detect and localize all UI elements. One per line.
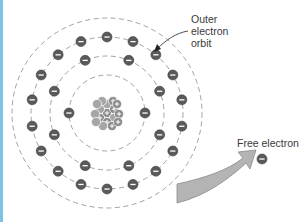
neutron [92, 99, 101, 108]
proton [112, 99, 121, 108]
electron [128, 37, 138, 47]
electron [128, 179, 138, 189]
nucleus [90, 96, 123, 130]
electron [124, 55, 134, 65]
outer-orbit-label-line3: orbit [191, 37, 228, 49]
electron [76, 37, 86, 47]
atom-diagram [0, 0, 302, 222]
electron [140, 108, 150, 118]
electron [36, 146, 46, 156]
electron [155, 86, 165, 96]
electron [53, 166, 63, 176]
outer-orbit-label: Outer electron orbit [191, 13, 228, 49]
electron [53, 50, 63, 60]
outer-orbit-label-line1: Outer [191, 13, 228, 25]
neutron [91, 117, 100, 126]
electron [102, 32, 112, 42]
electron [49, 86, 59, 96]
proton [113, 117, 122, 126]
free-electron-label: Free electron [237, 137, 299, 149]
outer-orbit-label-line2: electron [191, 25, 228, 37]
electron [64, 108, 74, 118]
electron [177, 95, 187, 105]
electron [168, 146, 178, 156]
electron [177, 121, 187, 131]
electron [49, 130, 59, 140]
free-electron-particle [257, 154, 267, 164]
electron [27, 121, 37, 131]
electron [27, 95, 37, 105]
electron [80, 55, 90, 65]
outer-orbit-pointer-arrow [154, 31, 188, 52]
electron [102, 184, 112, 194]
free-electron [257, 154, 267, 164]
electron [36, 70, 46, 80]
free-electron-arrow [177, 150, 256, 203]
electron [80, 161, 90, 171]
electron [155, 130, 165, 140]
electron [151, 166, 161, 176]
electron [124, 161, 134, 171]
electron [76, 179, 86, 189]
electron [168, 70, 178, 80]
electron [151, 50, 161, 60]
